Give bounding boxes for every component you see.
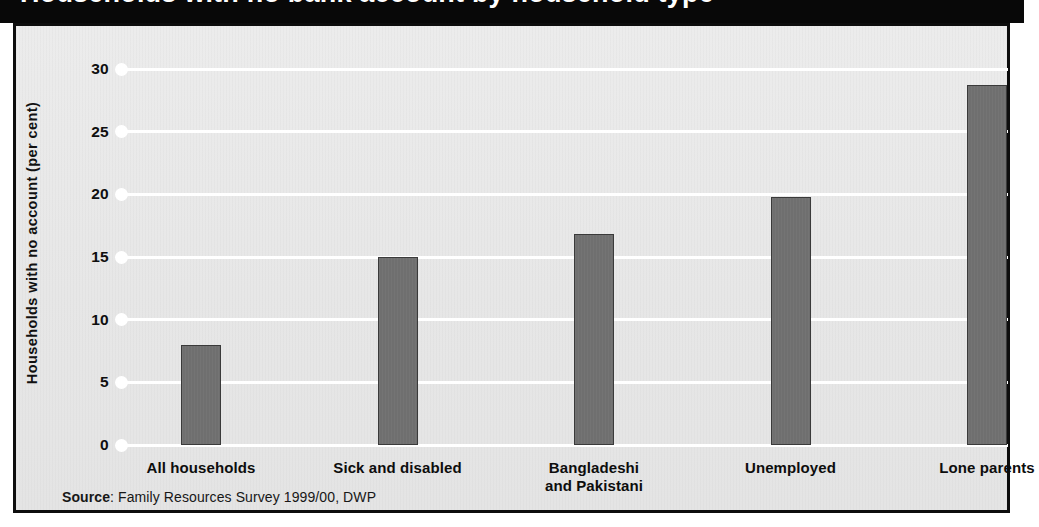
y-tick-label: 25	[63, 123, 109, 141]
gridline	[122, 444, 1008, 447]
y-tick-marker	[115, 376, 128, 389]
bar	[967, 85, 1007, 445]
source-separator: :	[110, 489, 118, 505]
x-tick-label: All households	[91, 459, 311, 477]
source-note: Source: Family Resources Survey 1999/00,…	[62, 489, 376, 505]
x-tick-label: Lone parents	[877, 459, 1039, 477]
x-tick-label-line: Bangladeshi	[484, 459, 704, 477]
gridline	[122, 381, 1008, 384]
y-tick-marker	[115, 251, 128, 264]
y-tick-label: 20	[63, 185, 109, 203]
y-tick-marker	[115, 439, 128, 452]
x-tick-label-line: Lone parents	[877, 459, 1039, 477]
gridline	[122, 318, 1008, 321]
y-tick-label: 30	[63, 60, 109, 78]
y-axis-title: Households with no account (per cent)	[22, 38, 42, 448]
plot-area: 051015202530All householdsSick and disab…	[109, 60, 1008, 445]
gridline	[122, 130, 1008, 133]
y-tick-label: 15	[63, 248, 109, 266]
x-tick-label-line: All households	[91, 459, 311, 477]
x-tick-label-line: and Pakistani	[484, 477, 704, 495]
y-tick-marker	[115, 313, 128, 326]
y-tick-marker	[115, 125, 128, 138]
chart-title: Households with no bank account by house…	[20, 0, 1010, 8]
chart-title-band: Households with no bank account by house…	[0, 0, 1024, 23]
gridline	[122, 256, 1008, 259]
y-tick-marker	[115, 188, 128, 201]
x-tick-label: Sick and disabled	[288, 459, 508, 477]
x-tick-label: Unemployed	[681, 459, 901, 477]
gridline	[122, 193, 1008, 196]
source-text: Family Resources Survey 1999/00, DWP	[118, 489, 376, 505]
bar	[378, 257, 418, 445]
gridline	[122, 68, 1008, 71]
y-tick-label: 0	[63, 436, 109, 454]
x-tick-label: Bangladeshiand Pakistani	[484, 459, 704, 495]
y-tick-label: 10	[63, 311, 109, 329]
y-tick-label: 5	[63, 373, 109, 391]
bar	[574, 234, 614, 445]
source-label: Source	[62, 489, 110, 505]
bar	[771, 197, 811, 445]
x-tick-label-line: Unemployed	[681, 459, 901, 477]
bar	[181, 345, 221, 445]
y-tick-marker	[115, 63, 128, 76]
x-tick-label-line: Sick and disabled	[288, 459, 508, 477]
